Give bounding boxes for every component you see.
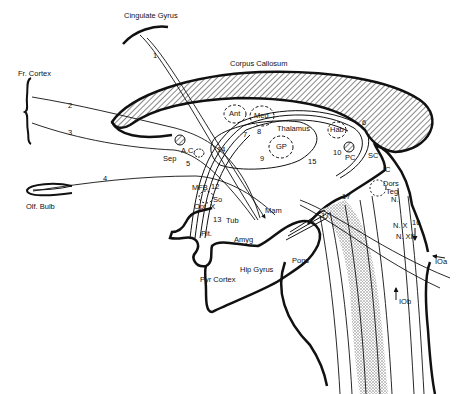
label-thalamus: Thalamus	[277, 125, 310, 133]
label-ac: A.C.	[181, 147, 196, 155]
label-hab: Hab	[330, 126, 344, 134]
label-pit: Pit.	[201, 230, 212, 238]
label-cingulate-gyrus: Cingulate Gyrus	[124, 12, 178, 20]
label-olf-bulb: Olf. Bulb	[26, 203, 55, 211]
label-ant: Ant	[229, 110, 240, 118]
pathway-number-8: 8	[257, 128, 261, 136]
pathway-number-12: 12	[211, 183, 219, 191]
pathway-number-17-prime: 17'	[321, 212, 331, 220]
label-so: So	[213, 196, 222, 204]
label-mfb: MFB	[192, 184, 208, 192]
label-corpus-callosum: Corpus Callosum	[230, 60, 288, 68]
pathway-number-7: 7	[243, 131, 247, 139]
label-pc: PC	[345, 154, 355, 162]
label-opt-x: Opt. X	[194, 203, 215, 211]
label-ic: IC	[383, 166, 391, 174]
label-med: Med.	[254, 112, 271, 120]
pathway-number-4: 4	[103, 175, 107, 183]
label-mam: Mam	[265, 207, 282, 215]
stippled-tract	[320, 200, 388, 394]
pons-outline	[281, 262, 327, 386]
pathway-number-1: 1	[153, 52, 157, 60]
pathway-number-15: 15	[308, 158, 316, 166]
pathway-number-13: 13	[213, 216, 221, 224]
pathway-number-16: 16	[412, 219, 420, 227]
label-pyr-cortex: Pyr Cortex	[200, 276, 235, 284]
label-sc: SC	[368, 152, 378, 160]
diagram-stage: Cingulate Gyrus Corpus Callosum Fr. Cort…	[0, 0, 468, 394]
label-hip-gyrus: Hip Gyrus	[240, 266, 273, 274]
corpus-callosum-shape	[112, 72, 432, 152]
pathway-number-10: 10	[333, 149, 341, 157]
pathway-number-9: 9	[260, 155, 264, 163]
label-amyg: Amyg	[234, 236, 253, 244]
pathway-number-17: 17	[342, 193, 350, 201]
label-n: N.	[391, 196, 399, 204]
pathway-number-14: 14	[217, 146, 225, 154]
pathway-number-3: 3	[68, 129, 72, 137]
label-tub: Tub	[226, 217, 239, 225]
label-sep: Sep	[163, 155, 176, 163]
label-gp: GP	[276, 143, 287, 151]
fr-cortex-brace	[25, 78, 31, 144]
label-ioa: IOa	[435, 258, 447, 266]
pathway-number-2: 2	[68, 102, 72, 110]
label-iob: IOb	[399, 298, 411, 306]
label-fr-cortex: Fr. Cortex	[18, 70, 51, 78]
label-n-x: N. X	[393, 222, 408, 230]
pc-dot	[344, 142, 354, 152]
label-pons: Pons	[292, 257, 309, 265]
pathway-number-5: 5	[186, 160, 190, 168]
label-n-xii: N. XII	[396, 233, 415, 241]
pathway-number-6: 6	[362, 119, 366, 127]
ac-dot	[175, 135, 185, 145]
